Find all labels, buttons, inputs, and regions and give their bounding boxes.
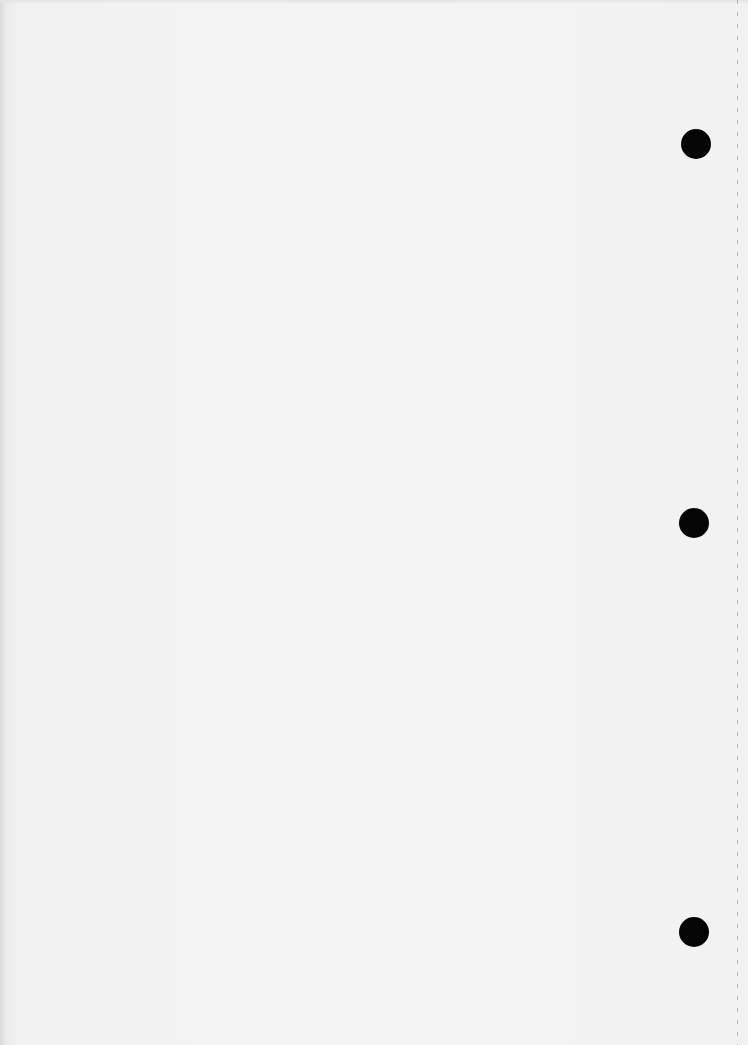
punch-hole-top (681, 129, 711, 159)
punch-hole-bottom (679, 917, 709, 947)
page-top-edge (0, 0, 748, 4)
punch-hole-middle (679, 508, 709, 538)
perforation-line (737, 0, 738, 1045)
blank-page (0, 0, 748, 1045)
